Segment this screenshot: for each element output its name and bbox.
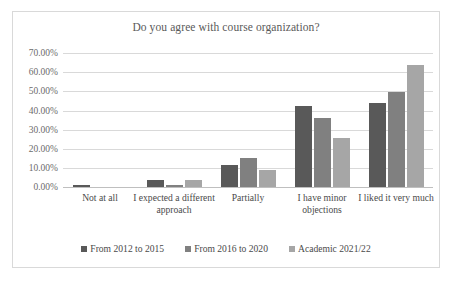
chart-title: Do you agree with course organization? bbox=[13, 21, 439, 33]
legend-item-series-1[interactable]: From 2016 to 2020 bbox=[185, 243, 268, 254]
y-tick-label: 50.00% bbox=[29, 86, 58, 96]
bar-series-1[interactable] bbox=[240, 158, 257, 187]
bar-series-2[interactable] bbox=[407, 65, 424, 188]
bar-series-1[interactable] bbox=[388, 92, 405, 187]
legend-label: From 2016 to 2020 bbox=[194, 243, 268, 254]
bar-series-0[interactable] bbox=[221, 165, 238, 187]
bar-series-2[interactable] bbox=[333, 138, 350, 187]
bar-series-0[interactable] bbox=[147, 180, 164, 187]
bar-group: Not at all bbox=[63, 53, 137, 187]
legend-item-series-2[interactable]: Academic 2021/22 bbox=[289, 243, 371, 254]
legend-label: From 2012 to 2015 bbox=[90, 243, 164, 254]
y-tick-label: 30.00% bbox=[29, 125, 58, 135]
y-tick-label: 0.00% bbox=[33, 182, 58, 192]
bar-series-1[interactable] bbox=[166, 185, 183, 187]
bars bbox=[137, 53, 211, 187]
legend-swatch-icon bbox=[81, 246, 87, 252]
chart-legend: From 2012 to 2015 From 2016 to 2020 Acad… bbox=[13, 243, 439, 254]
bars bbox=[63, 53, 137, 187]
bars bbox=[359, 53, 433, 187]
category-label: I liked it very much bbox=[353, 192, 439, 204]
y-tick-label: 70.00% bbox=[29, 48, 58, 58]
bar-group: I have minor objections bbox=[285, 53, 359, 187]
bar-series-2[interactable] bbox=[185, 180, 202, 187]
y-tick-label: 60.00% bbox=[29, 67, 58, 77]
bar-group: Partially bbox=[211, 53, 285, 187]
bar-series-0[interactable] bbox=[295, 106, 312, 187]
bar-group: I expected a different approach bbox=[137, 53, 211, 187]
chart-container: Do you agree with course organization? 7… bbox=[12, 11, 440, 268]
bar-series-1[interactable] bbox=[314, 118, 331, 187]
y-tick-label: 10.00% bbox=[29, 163, 58, 173]
y-tick-label: 20.00% bbox=[29, 144, 58, 154]
legend-item-series-0[interactable]: From 2012 to 2015 bbox=[81, 243, 164, 254]
legend-label: Academic 2021/22 bbox=[298, 243, 371, 254]
y-tick-label: 40.00% bbox=[29, 106, 58, 116]
legend-swatch-icon bbox=[289, 246, 295, 252]
bar-groups: Not at all I expected a different approa… bbox=[63, 53, 433, 187]
bars bbox=[211, 53, 285, 187]
bars bbox=[285, 53, 359, 187]
bar-series-0[interactable] bbox=[73, 185, 90, 187]
bar-series-0[interactable] bbox=[369, 103, 386, 187]
plot-area: 70.00% 60.00% 50.00% 40.00% 30.00% 20.00… bbox=[63, 53, 433, 187]
legend-swatch-icon bbox=[185, 246, 191, 252]
bar-series-2[interactable] bbox=[259, 170, 276, 187]
bar-group: I liked it very much bbox=[359, 53, 433, 187]
x-axis-line bbox=[63, 187, 433, 188]
